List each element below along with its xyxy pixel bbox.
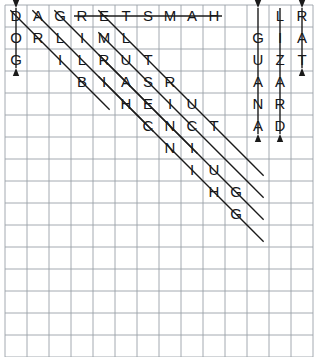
grid-letter[interactable]: I	[159, 93, 181, 115]
grid-letter[interactable]: G	[225, 203, 247, 225]
grid-letter[interactable]: S	[137, 71, 159, 93]
grid-letter[interactable]: O	[5, 27, 27, 49]
grid-letter[interactable]: A	[269, 71, 291, 93]
grid-letter[interactable]: L	[71, 49, 93, 71]
grid-letter[interactable]: C	[137, 115, 159, 137]
grid-letter[interactable]: D	[269, 115, 291, 137]
grid-letter[interactable]: N	[159, 115, 181, 137]
grid-letter[interactable]: I	[269, 27, 291, 49]
grid-letter[interactable]: U	[203, 159, 225, 181]
grid-letter[interactable]: R	[291, 5, 313, 27]
grid-letter[interactable]: E	[93, 5, 115, 27]
grid-letter[interactable]: H	[203, 181, 225, 203]
grid-letter[interactable]: T	[137, 49, 159, 71]
grid-letter[interactable]: I	[71, 27, 93, 49]
grid-letter[interactable]: H	[115, 93, 137, 115]
grid-letter[interactable]: U	[115, 49, 137, 71]
grid-letter[interactable]: T	[291, 49, 313, 71]
grid-letter[interactable]: R	[27, 27, 49, 49]
grid-letter[interactable]: U	[181, 93, 203, 115]
grid-letter[interactable]: C	[181, 115, 203, 137]
grid-letter[interactable]: I	[49, 49, 71, 71]
grid-letter[interactable]: G	[247, 27, 269, 49]
grid-letter[interactable]: D	[5, 5, 27, 27]
grid-letter[interactable]: L	[115, 27, 137, 49]
grid-letter[interactable]: A	[247, 115, 269, 137]
grid-letter[interactable]: A	[27, 5, 49, 27]
grid-letter[interactable]: R	[159, 71, 181, 93]
grid-letter[interactable]: I	[181, 137, 203, 159]
grid-letter[interactable]: H	[203, 5, 225, 27]
grid-letter[interactable]: A	[115, 71, 137, 93]
grid-letter[interactable]: L	[49, 27, 71, 49]
grid-letter[interactable]: M	[93, 27, 115, 49]
grid-letter[interactable]: I	[181, 159, 203, 181]
grid-letter[interactable]: G	[225, 181, 247, 203]
grid-letter[interactable]: T	[203, 115, 225, 137]
grid-letter[interactable]: A	[181, 5, 203, 27]
word-search-puzzle[interactable]: DAGRETSMAHLRORLIMLGIAGILRUTUZTBIASRAAHEI…	[0, 0, 336, 357]
grid-letter[interactable]: A	[291, 27, 313, 49]
grid-letter[interactable]: N	[247, 93, 269, 115]
grid-letter[interactable]: T	[115, 5, 137, 27]
grid-letter[interactable]: B	[71, 71, 93, 93]
grid-letter[interactable]: M	[159, 5, 181, 27]
grid-letter[interactable]: R	[93, 49, 115, 71]
grid-letter[interactable]: S	[137, 5, 159, 27]
grid-letter[interactable]: R	[71, 5, 93, 27]
grid-letter[interactable]: E	[137, 93, 159, 115]
grid-letter[interactable]: R	[269, 93, 291, 115]
grid-letter[interactable]: G	[49, 5, 71, 27]
grid-letter[interactable]: L	[269, 5, 291, 27]
grid-letter[interactable]: I	[93, 71, 115, 93]
grid-letter[interactable]: A	[247, 71, 269, 93]
letter-layer: DAGRETSMAHLRORLIMLGIAGILRUTUZTBIASRAAHEI…	[0, 0, 336, 357]
grid-letter[interactable]: Z	[269, 49, 291, 71]
grid-letter[interactable]: U	[247, 49, 269, 71]
grid-letter[interactable]: G	[5, 49, 27, 71]
grid-letter[interactable]: N	[159, 137, 181, 159]
